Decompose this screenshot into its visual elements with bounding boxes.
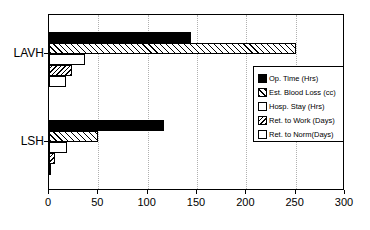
legend-label: Est. Blood Loss (cc) xyxy=(269,88,336,97)
legend-swatch-icon xyxy=(258,102,267,111)
bar xyxy=(49,43,296,54)
legend-swatch-icon xyxy=(258,88,267,97)
x-tick-label: 200 xyxy=(225,196,265,209)
x-tick-150 xyxy=(196,190,197,194)
y-tick-lavh xyxy=(44,53,48,54)
legend-swatch-icon xyxy=(258,74,267,83)
bar xyxy=(49,76,66,87)
legend-label: Ret. to Norm(Days) xyxy=(269,130,334,139)
bar-chart: 050100150200250300 LAVHLSH Op. Time (Hrs… xyxy=(0,0,370,230)
x-tick-label: 100 xyxy=(127,196,167,209)
bar xyxy=(49,32,191,43)
x-tick-50 xyxy=(97,190,98,194)
bar xyxy=(49,54,85,65)
legend-label: Ret. to Work (Days) xyxy=(269,116,335,125)
x-tick-200 xyxy=(245,190,246,194)
bar xyxy=(49,142,67,153)
x-tick-label: 50 xyxy=(77,196,117,209)
bar xyxy=(49,65,72,76)
y-group-label-lsh: LSH xyxy=(0,134,44,148)
x-tick-0 xyxy=(48,190,49,194)
bar xyxy=(49,120,164,131)
x-tick-300 xyxy=(344,190,345,194)
legend-swatch-icon xyxy=(258,130,267,139)
y-tick-lsh xyxy=(44,141,48,142)
legend-item: Est. Blood Loss (cc) xyxy=(258,85,340,99)
y-group-label-lavh: LAVH xyxy=(0,46,44,60)
x-tick-label: 150 xyxy=(176,196,216,209)
bar xyxy=(49,164,51,175)
legend-label: Hosp. Stay (Hrs) xyxy=(269,102,324,111)
x-tick-250 xyxy=(295,190,296,194)
legend-item: Hosp. Stay (Hrs) xyxy=(258,99,340,113)
bar xyxy=(49,131,98,142)
legend-swatch-icon xyxy=(258,116,267,125)
bar xyxy=(49,153,55,164)
x-tick-label: 250 xyxy=(275,196,315,209)
x-tick-label: 0 xyxy=(28,196,68,209)
legend-item: Op. Time (Hrs) xyxy=(258,71,340,85)
legend-label: Op. Time (Hrs) xyxy=(269,74,318,83)
x-tick-100 xyxy=(147,190,148,194)
legend-item: Ret. to Norm(Days) xyxy=(258,127,340,141)
x-tick-label: 300 xyxy=(324,196,364,209)
legend-item: Ret. to Work (Days) xyxy=(258,113,340,127)
legend: Op. Time (Hrs)Est. Blood Loss (cc)Hosp. … xyxy=(253,66,344,142)
